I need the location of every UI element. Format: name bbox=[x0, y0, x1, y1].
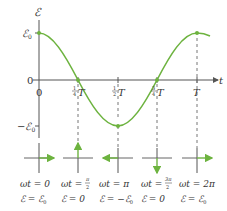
svg-text:T: T bbox=[118, 87, 126, 98]
phase-label-4: ωt = 2π bbox=[179, 179, 216, 189]
svg-text:T: T bbox=[157, 87, 165, 98]
emf-label-0: ℰ = ℰ0 bbox=[20, 194, 46, 205]
svg-text:4: 4 bbox=[73, 91, 76, 97]
x-tick-label-period: T bbox=[193, 87, 201, 98]
emf-label-2: ℰ = −ℰ0 bbox=[99, 194, 133, 205]
phase-label-0: ωt = 0 bbox=[20, 179, 50, 189]
x-tick-label-half: 1 2 T bbox=[112, 85, 126, 98]
svg-text:2: 2 bbox=[113, 91, 116, 97]
y-tick-label-min: −ℰ0 bbox=[17, 121, 35, 133]
phasor-3 bbox=[142, 148, 172, 173]
svg-text:π: π bbox=[85, 176, 90, 182]
svg-text:ωt =: ωt = bbox=[141, 179, 162, 189]
y-axis-label: ℰ bbox=[34, 6, 42, 19]
emf-label-1: ℰ = 0 bbox=[61, 194, 85, 204]
dashed-guides bbox=[78, 38, 197, 148]
x-tick-label-quarter: 1 4 T bbox=[72, 85, 86, 98]
y-tick-label-zero: 0 bbox=[27, 75, 33, 86]
phasor-0 bbox=[24, 143, 54, 173]
svg-text:4: 4 bbox=[152, 91, 155, 97]
svg-text:2: 2 bbox=[166, 184, 169, 190]
x-tick-label-0: 0 bbox=[36, 87, 42, 98]
phasor-1 bbox=[63, 143, 93, 173]
svg-text:3π: 3π bbox=[165, 176, 172, 182]
y-tick-label-max: ℰ0 bbox=[22, 28, 32, 40]
emf-label-3: ℰ = 0 bbox=[141, 194, 165, 204]
emf-label-4: ℰ = ℰ0 bbox=[180, 194, 206, 205]
svg-text:2: 2 bbox=[86, 184, 89, 190]
emf-cosine-diagram: ℰ t ℰ0 0 −ℰ0 0 1 4 T 1 2 T 3 4 T T bbox=[0, 0, 227, 211]
phase-label-3: ωt = 3π 2 bbox=[141, 176, 172, 190]
phasor-4 bbox=[182, 148, 212, 173]
axes bbox=[33, 20, 218, 138]
x-axis-label: t bbox=[219, 75, 224, 86]
phasor-2 bbox=[103, 148, 133, 173]
x-tick-label-three-quarter: 3 4 T bbox=[151, 85, 165, 98]
phase-label-1: ωt = π 2 bbox=[61, 176, 90, 190]
phase-label-2: ωt = π bbox=[99, 179, 130, 189]
svg-text:ωt =: ωt = bbox=[61, 179, 82, 189]
